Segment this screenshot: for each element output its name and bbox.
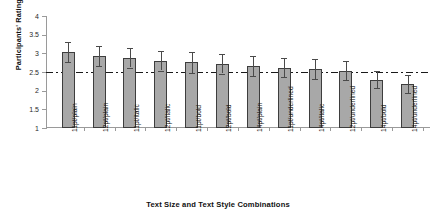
x-tick-label: 12pt/italic bbox=[164, 104, 171, 132]
y-tick-label: 1 bbox=[15, 125, 39, 132]
y-tick bbox=[42, 16, 47, 17]
x-axis-title: Text Size and Text Style Combinations bbox=[0, 200, 436, 209]
error-bar-cap-top bbox=[65, 42, 71, 43]
x-tick-label: 11pt/plain bbox=[71, 103, 78, 132]
y-tick bbox=[42, 91, 47, 92]
error-bar-cap-bottom bbox=[250, 76, 256, 77]
error-bar bbox=[99, 46, 100, 65]
x-tick bbox=[300, 127, 301, 131]
error-bar-cap-top bbox=[250, 56, 256, 57]
error-bar bbox=[284, 58, 285, 77]
error-bar-cap-top bbox=[219, 54, 225, 55]
x-tick bbox=[238, 127, 239, 131]
error-bar-cap-bottom bbox=[405, 93, 411, 94]
error-bar-cap-bottom bbox=[281, 77, 287, 78]
x-tick-label: 14pt/bold bbox=[380, 104, 387, 132]
x-tick bbox=[145, 127, 146, 131]
error-bar-cap-top bbox=[96, 46, 102, 47]
error-bar bbox=[315, 59, 316, 78]
error-bar-cap-bottom bbox=[127, 68, 133, 69]
error-bar bbox=[346, 61, 347, 80]
x-tick bbox=[392, 127, 393, 131]
y-tick-label: 2 bbox=[15, 87, 39, 94]
error-bar-cap-bottom bbox=[158, 71, 164, 72]
y-tick bbox=[42, 35, 47, 36]
error-bar-cap-top bbox=[343, 61, 349, 62]
error-bar bbox=[377, 71, 378, 89]
error-bar-cap-bottom bbox=[312, 79, 318, 80]
error-bar-cap-bottom bbox=[65, 62, 71, 63]
y-tick-label: 1.5 bbox=[15, 106, 39, 113]
error-bar bbox=[222, 54, 223, 73]
x-tick-label: 12pt/underlined bbox=[349, 86, 356, 132]
error-bar bbox=[408, 75, 409, 93]
x-tick bbox=[207, 127, 208, 131]
y-tick-label: 2.5 bbox=[15, 69, 39, 76]
error-bar-cap-bottom bbox=[189, 73, 195, 74]
y-tick-label: 3.5 bbox=[15, 31, 39, 38]
y-tick bbox=[42, 53, 47, 54]
x-tick-label: 11pt/italic bbox=[133, 104, 140, 132]
x-tick-label: 14pt/underlined bbox=[411, 86, 418, 132]
x-tick bbox=[423, 127, 424, 131]
error-bar-cap-bottom bbox=[96, 66, 102, 67]
x-tick-label: 14pt/plain bbox=[256, 103, 263, 132]
error-bar bbox=[130, 48, 131, 67]
chart-figure: Participants' Ratings 11.522.533.54 11pt… bbox=[0, 0, 436, 219]
x-tick bbox=[269, 127, 270, 131]
error-bar bbox=[161, 51, 162, 70]
error-bar-cap-top bbox=[374, 71, 380, 72]
error-bar-cap-bottom bbox=[374, 88, 380, 89]
error-bar-cap-top bbox=[189, 52, 195, 53]
error-bar bbox=[253, 56, 254, 75]
error-bar-cap-top bbox=[281, 58, 287, 59]
x-tick-label: 12pt/bold bbox=[225, 104, 232, 132]
y-tick bbox=[42, 128, 47, 129]
x-tick bbox=[176, 127, 177, 131]
error-bar-cap-top bbox=[127, 48, 133, 49]
x-tick-label: 11pt/bold bbox=[195, 105, 202, 132]
y-tick-label: 4 bbox=[15, 13, 39, 20]
x-tick bbox=[84, 127, 85, 131]
y-tick-label: 3 bbox=[15, 50, 39, 57]
y-tick bbox=[42, 109, 47, 110]
x-tick bbox=[330, 127, 331, 131]
x-tick-label: 14pt/italic bbox=[318, 104, 325, 132]
error-bar-cap-top bbox=[312, 59, 318, 60]
error-bar-cap-bottom bbox=[219, 74, 225, 75]
error-bar-cap-bottom bbox=[343, 80, 349, 81]
x-tick-label: 11pt/underlined bbox=[287, 86, 294, 132]
error-bar-cap-top bbox=[158, 51, 164, 52]
error-bar bbox=[192, 52, 193, 73]
x-tick bbox=[115, 127, 116, 131]
x-tick bbox=[361, 127, 362, 131]
error-bar bbox=[68, 42, 69, 62]
error-bar-cap-top bbox=[405, 75, 411, 76]
x-tick-label: 12pt/plain bbox=[102, 103, 109, 132]
